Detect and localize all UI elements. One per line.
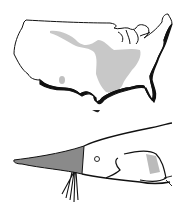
- us-outline: [14, 14, 172, 102]
- paddlefish-illustration: [0, 110, 184, 220]
- species-range-shade: [50, 31, 141, 93]
- eye: [95, 157, 100, 162]
- range-patch-west: [59, 76, 65, 84]
- barbels: [62, 172, 78, 202]
- fin-fragment: [92, 110, 100, 112]
- us-range-map: [0, 0, 184, 112]
- paddle-snout: [14, 146, 84, 174]
- body-edge: [164, 176, 172, 186]
